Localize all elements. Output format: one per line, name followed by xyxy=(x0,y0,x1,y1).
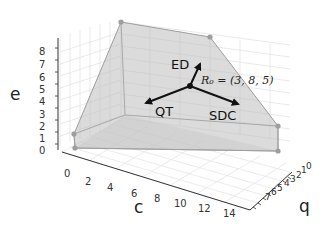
x-tick-0: 0 xyxy=(64,168,70,179)
y-tick-5: 5 xyxy=(277,183,283,193)
z-tick-6: 6 xyxy=(39,72,45,83)
z-axis-title: e xyxy=(10,84,20,104)
x-tick-14: 14 xyxy=(223,208,236,219)
y-tick-2: 2 xyxy=(296,170,302,180)
z-tick-7: 7 xyxy=(39,59,45,70)
point-annotation: R₀ = (3, 8, 5) xyxy=(201,74,273,87)
z-tick-0: 0 xyxy=(39,145,45,156)
z-tick-4: 4 xyxy=(39,96,45,107)
y-tick-0: 0 xyxy=(306,161,312,171)
y-tick-6: 6 xyxy=(271,187,277,197)
y-tick-3: 3 xyxy=(290,174,296,184)
z-tick-8: 8 xyxy=(39,46,45,57)
y-tick-4: 4 xyxy=(284,178,290,188)
x-tick-4: 4 xyxy=(107,182,113,193)
x-tick-10: 10 xyxy=(174,198,187,209)
z-tick-1: 1 xyxy=(39,133,45,144)
vector-label-sdc: SDC xyxy=(209,108,236,123)
x-tick-2: 2 xyxy=(85,176,91,187)
y-tick-7: 7 xyxy=(265,192,271,202)
x-tick-8: 8 xyxy=(154,193,160,204)
z-tick-2: 2 xyxy=(39,121,45,132)
vector-label-ed: ED xyxy=(171,57,189,72)
y-axis-title: q xyxy=(299,196,310,216)
x-tick-12: 12 xyxy=(198,203,211,214)
x-axis-title: c xyxy=(134,197,143,217)
vector-label-qt: QT xyxy=(155,104,173,119)
point-r0 xyxy=(187,83,193,89)
z-tick-3: 3 xyxy=(39,109,45,120)
y-tick-1: 1 xyxy=(301,165,307,175)
z-tick-5: 5 xyxy=(39,84,45,95)
